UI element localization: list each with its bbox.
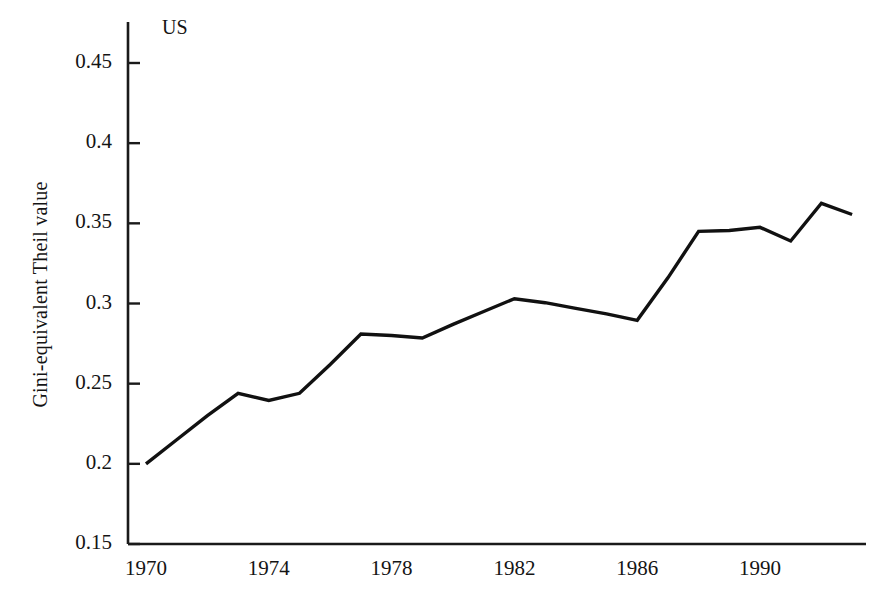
axis-lines (128, 22, 866, 544)
data-line-us (146, 203, 852, 464)
y-axis-tick-marks (128, 63, 140, 544)
chart-figure: Gini-equivalent Theil value US 0.450.40.… (0, 0, 869, 616)
plot-area (0, 0, 869, 616)
